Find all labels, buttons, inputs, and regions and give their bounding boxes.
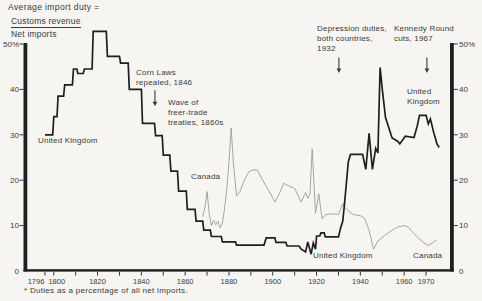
chart-canvas: 50%50%4040303020201010001796180018201840… xyxy=(0,0,482,301)
y-label-right: 50% xyxy=(459,40,475,49)
series-label-uk-bottom: United Kingdom xyxy=(313,251,373,261)
chart-footnote: * Duties as a percentage of all net impo… xyxy=(24,286,188,296)
y-axis-right xyxy=(450,43,454,272)
annotation-freer-trade-treaties: Wave of freer-trade treaties, 1860s xyxy=(168,98,223,128)
series-label-canada-upper: Canada xyxy=(191,172,220,182)
x-label-1920: 1920 xyxy=(308,277,325,286)
y-label-left: 40 xyxy=(10,85,19,94)
x-label-1880: 1880 xyxy=(221,277,238,286)
series-label-canada-lower: Canada xyxy=(413,251,442,261)
series-canada-line xyxy=(203,128,437,249)
x-label-1840: 1840 xyxy=(133,277,150,286)
series-uk-line xyxy=(45,31,439,254)
x-label-1796: 1796 xyxy=(28,277,45,286)
kennedy-arrow-head xyxy=(425,69,430,74)
y-label-left: 30 xyxy=(10,131,19,140)
depression-arrow-head xyxy=(337,69,342,74)
x-label-1800: 1800 xyxy=(48,277,65,286)
y-label-right: 10 xyxy=(459,221,468,230)
annotation-depression-duties: Depression duties, both countries, 1932 xyxy=(317,24,387,54)
y-label-left: 10 xyxy=(10,221,19,230)
y-label-right: 20 xyxy=(459,176,468,185)
formula-fraction: Customs revenue Net imports xyxy=(11,16,81,39)
annotation-corn-laws: Corn Laws repealed, 1846 xyxy=(136,68,192,88)
annotation-kennedy-round: Kennedy Round cuts, 1967 xyxy=(394,24,454,44)
series-label-uk-left: United Kingdom xyxy=(38,136,98,146)
x-label-1960: 1960 xyxy=(396,277,413,286)
y-label-right: 0 xyxy=(459,267,464,276)
x-label-1860: 1860 xyxy=(177,277,194,286)
formula-denominator: Net imports xyxy=(11,28,81,39)
x-label-1820: 1820 xyxy=(89,277,106,286)
series-label-uk-right: United Kingdom xyxy=(407,87,440,107)
x-label-1900: 1900 xyxy=(264,277,281,286)
chart-title: Average import duty = xyxy=(8,2,100,12)
tariff-history-chart: Average import duty = Customs revenue Ne… xyxy=(0,0,482,301)
y-label-right: 30 xyxy=(459,131,468,140)
y-label-right: 40 xyxy=(459,85,468,94)
x-label-1970: 1970 xyxy=(418,277,435,286)
formula-numerator: Customs revenue xyxy=(11,16,81,28)
x-axis xyxy=(24,269,454,271)
y-label-left: 50% xyxy=(3,40,19,49)
corn-laws-arrow-head xyxy=(153,102,158,107)
y-axis-left xyxy=(24,43,28,272)
x-label-1940: 1940 xyxy=(352,277,369,286)
y-label-left: 20 xyxy=(10,176,19,185)
y-label-left: 0 xyxy=(15,267,20,276)
